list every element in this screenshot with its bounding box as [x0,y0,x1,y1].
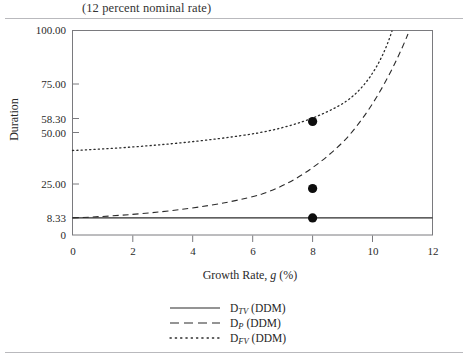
y-axis-title: Duration [7,85,22,155]
legend-swatch-dotted-icon [168,331,222,345]
legend-model-dtv: (DDM) [248,302,285,314]
x-axis-title: Growth Rate, g (%) [160,268,340,283]
ytick-label-0: 0 [14,229,66,241]
figure-divider-bottom [5,352,463,353]
legend-item-dtv: DTV (DDM) [168,300,358,315]
legend-label-dp: DP (DDM) [222,317,281,329]
ytick-label-100: 100.00 [14,24,66,36]
marker-dfv-g8 [308,117,317,126]
xtick-label-0: 0 [58,245,88,257]
ytick-label-8-33: 8.33 [14,212,66,224]
marker-dtv-g8 [308,213,317,222]
x-axis-title-suffix: (%) [276,268,297,282]
legend-swatch-dashed-icon [168,316,222,330]
legend-model-dp: (DDM) [244,317,281,329]
ytick-label-50: 50.00 [14,127,66,139]
duration-chart-figure: (12 percent nominal rate) 100.00 75.00 5… [0,0,468,364]
legend-label-dfv: DFV (DDM) [222,332,286,344]
legend-item-dp: DP (DDM) [168,315,358,330]
legend-item-dfv: DFV (DDM) [168,330,358,345]
legend-swatch-solid-icon [168,301,222,315]
x-axis-title-prefix: Growth Rate, [203,268,271,282]
xtick-label-10: 10 [358,245,388,257]
ytick-label-75: 75.00 [14,78,66,90]
legend-model-dfv: (DDM) [249,332,286,344]
ytick-label-25: 25.00 [14,178,66,190]
series-line-dfv [73,31,393,151]
ytick-label-58-30: 58.30 [14,113,66,125]
series-line-dp [73,34,409,218]
xtick-label-4: 4 [178,245,208,257]
legend-label-dtv: DTV (DDM) [222,302,286,314]
xtick-label-6: 6 [238,245,268,257]
xtick-label-12: 12 [418,245,448,257]
chart-legend: DTV (DDM) DP (DDM) DFV (DDM) [168,300,358,345]
xtick-label-2: 2 [118,245,148,257]
xtick-label-8: 8 [298,245,328,257]
legend-subscript-dfv: FV [238,336,248,346]
marker-dp-g8 [308,184,317,193]
